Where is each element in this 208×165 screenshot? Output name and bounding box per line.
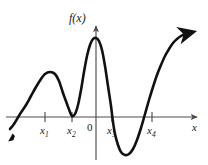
- function-curve: [10, 33, 189, 155]
- y-axis-label: f(x): [69, 11, 86, 25]
- tick-label-x1: x1: [39, 124, 49, 139]
- origin-label: 0: [87, 121, 93, 133]
- tick-label-x1-sub: 1: [45, 130, 49, 139]
- curve-start-arrowhead: [8, 134, 15, 142]
- x-axis-label: x: [191, 121, 197, 133]
- graph-canvas: x f(x) 0 x1 x2 x3 x4: [0, 0, 208, 165]
- tick-label-x2-sub: 2: [72, 130, 76, 139]
- x-axis: x: [6, 117, 197, 133]
- tick-label-x4-sub: 4: [152, 130, 156, 139]
- tick-label-x2: x2: [66, 124, 76, 139]
- function-graph-figure: x f(x) 0 x1 x2 x3 x4: [0, 0, 208, 165]
- tick-label-x4: x4: [146, 124, 156, 139]
